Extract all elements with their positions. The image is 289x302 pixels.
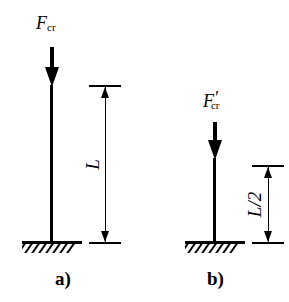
ground-support-b [185,241,245,253]
column-a [50,85,53,244]
dimension-arrow-top-a [101,87,109,98]
dimension-arrow-top-b [264,167,272,178]
panel-b: F′cr [145,0,289,302]
load-arrow-head-a [45,67,59,87]
dimension-label-a: L [83,155,102,175]
force-subscript-a: cr [47,21,56,33]
dimension-cap-bottom-b [252,242,284,244]
column-b [213,158,216,244]
dimension-arrow-bottom-b [264,231,272,242]
panel-caption-a: a) [55,268,71,290]
panel-caption-b: b) [207,268,224,290]
dimension-line-a [105,85,106,244]
ground-hatching-b [185,244,245,253]
force-symbol-a: F [36,13,47,33]
ground-support-a [22,241,82,253]
dimension-arrow-bottom-a [101,231,109,242]
force-label-b: F′cr [203,89,219,111]
dimension-cap-bottom-a [89,242,121,244]
dimension-label-b: L/2 [245,183,264,227]
load-arrow-b [203,122,227,162]
load-arrow-a [40,47,64,87]
ground-hatching-a [22,244,82,253]
force-label-a: Fcr [36,14,56,33]
buckling-column-figure: Fcr [0,0,289,302]
force-subscript-b: cr [211,99,220,111]
panel-a: Fcr [0,0,145,302]
load-arrow-head-b [208,140,222,160]
